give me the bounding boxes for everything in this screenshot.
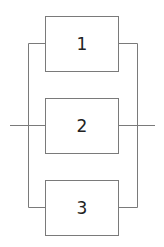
block-1-label: 1 — [77, 34, 88, 54]
block-2: 2 — [46, 99, 119, 154]
block-3-label: 3 — [77, 198, 88, 218]
block-1: 1 — [46, 17, 119, 72]
block-2-label: 2 — [77, 116, 88, 136]
parallel-block-diagram: 1 2 3 — [0, 0, 164, 247]
block-3: 3 — [46, 181, 119, 236]
